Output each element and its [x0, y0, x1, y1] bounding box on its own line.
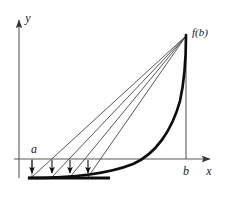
y-axis-label: y — [24, 11, 31, 25]
label-b: b — [183, 164, 189, 178]
function-curve — [29, 35, 186, 178]
figure-container: y x a b f(b) — [0, 0, 227, 199]
secant-line-2 — [52, 36, 186, 177]
label-fb: f(b) — [192, 26, 208, 39]
secant-line-4 — [88, 36, 186, 177]
secant-line-1 — [32, 36, 186, 177]
label-a: a — [31, 142, 37, 156]
x-axis-label: x — [205, 164, 212, 178]
math-diagram: y x a b f(b) — [0, 0, 227, 199]
secant-line-3 — [70, 36, 186, 177]
